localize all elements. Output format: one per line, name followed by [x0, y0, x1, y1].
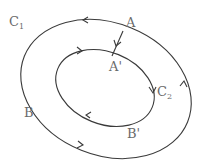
arrow-right-icon	[77, 47, 82, 54]
outer-loop-c1	[0, 0, 201, 166]
label-c1: C1	[9, 14, 24, 31]
label-b: B	[24, 105, 34, 120]
diagram-canvas: C1 C2 A A' B B'	[0, 0, 201, 166]
label-a: A	[125, 15, 136, 30]
inner-loop-c2	[44, 36, 166, 141]
label-b-prime: B'	[127, 126, 140, 141]
arrow-up-icon	[180, 81, 187, 87]
arrow-left-icon	[86, 112, 91, 118]
arrow-right-icon	[77, 141, 83, 148]
label-a-prime: A'	[108, 59, 122, 74]
arrow-left-icon	[83, 17, 88, 23]
label-c2: C2	[157, 84, 172, 101]
connector-a-to-a-prime	[112, 31, 123, 56]
